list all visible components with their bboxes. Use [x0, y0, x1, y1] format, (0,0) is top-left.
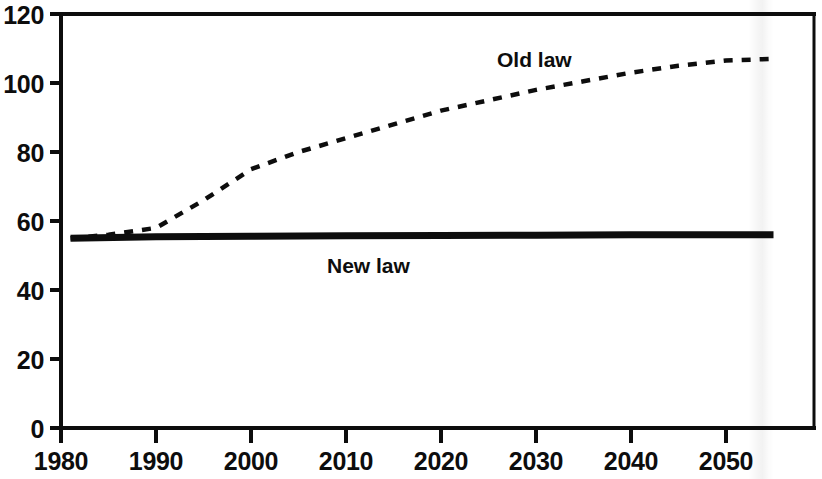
x-tick-label-1990: 1990	[106, 447, 206, 476]
x-tick-label-2020: 2020	[391, 447, 491, 476]
series-annotation-new-law: New law	[327, 254, 410, 278]
chart-figure: 120 100 80 60 40 20 0 1980 1990 2000 201…	[0, 0, 822, 479]
x-tick-label-2040: 2040	[581, 447, 681, 476]
y-tick-label-120: 120	[0, 1, 44, 30]
x-tick-label-1980: 1980	[11, 447, 111, 476]
axis-frame	[61, 14, 816, 428]
x-tick-label-2000: 2000	[201, 447, 301, 476]
y-tick-label-100: 100	[0, 70, 44, 99]
plot-canvas	[0, 0, 822, 479]
y-tick-label-40: 40	[0, 277, 44, 306]
series-annotation-old-law: Old law	[497, 48, 572, 72]
x-tick-label-2050: 2050	[676, 447, 776, 476]
y-tick-label-20: 20	[0, 346, 44, 375]
y-tick-label-80: 80	[0, 139, 44, 168]
series-line-old-law	[71, 59, 774, 238]
x-tick-label-2030: 2030	[486, 447, 586, 476]
y-tick-label-0: 0	[0, 415, 44, 444]
series-line-new-law	[71, 235, 774, 238]
x-tick-label-2010: 2010	[296, 447, 396, 476]
y-tick-label-60: 60	[0, 208, 44, 237]
x-axis-ticks	[61, 428, 726, 443]
